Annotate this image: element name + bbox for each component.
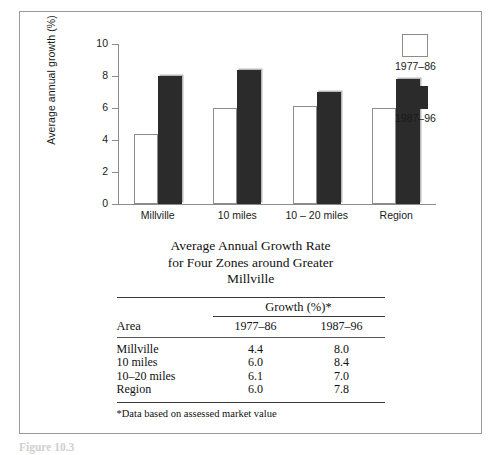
bar-10-miles-1977–86 <box>213 108 237 204</box>
table-title-line-0: Average Annual Growth Rate <box>101 238 401 255</box>
legend-label-0: 1977–86 <box>395 60 481 72</box>
row-value-2: 8.4 <box>299 356 385 370</box>
y-tick-label-8: 8 <box>74 69 108 81</box>
bar-10-20-miles-1987–96 <box>317 92 341 204</box>
table-header-period-1: 1977–86 <box>213 319 299 334</box>
table-title-line-2: Millville <box>101 271 401 288</box>
table-footnote: *Data based on assessed market value <box>117 403 385 419</box>
table-header-row: Area 1977–86 1987–96 <box>117 317 385 337</box>
y-tick-label-10: 10 <box>74 37 108 49</box>
table-title-line-1: for Four Zones around Greater <box>101 255 401 272</box>
row-area: Region <box>117 383 213 397</box>
y-tick-0 <box>112 204 118 205</box>
row-value-2: 7.8 <box>299 383 385 397</box>
legend-swatch-1 <box>402 86 428 109</box>
row-value-2: 7.0 <box>299 370 385 384</box>
figure-caption: Figure 10.3 <box>19 441 74 453</box>
bar-group <box>118 44 436 204</box>
row-area: Millville <box>117 343 213 357</box>
data-table: Growth (%)* Area 1977–86 1987–96 Millvil… <box>117 297 385 419</box>
legend-label-1: 1987–96 <box>395 112 481 124</box>
y-tick-label-6: 6 <box>74 101 108 113</box>
table-body: Millville4.48.010 miles6.08.410–20 miles… <box>117 338 385 402</box>
table-row: 10 miles6.08.4 <box>117 356 385 370</box>
data-table-section: Average Annual Growth Ratefor Four Zones… <box>20 238 481 419</box>
x-tick-label-3: Region <box>346 209 446 221</box>
y-axis-label: Average annual growth (%) <box>45 5 57 155</box>
row-value-1: 6.0 <box>213 356 299 370</box>
row-value-1: 6.1 <box>213 370 299 384</box>
bar-10-miles-1987–96 <box>237 70 261 204</box>
y-tick-label-2: 2 <box>74 165 108 177</box>
row-value-2: 8.0 <box>299 343 385 357</box>
bar-10-20-miles-1977–86 <box>293 106 317 204</box>
table-row: Millville4.48.0 <box>117 343 385 357</box>
bar-chart: Average annual growth (%) 0246810 Millvi… <box>20 12 481 227</box>
figure-container: Average annual growth (%) 0246810 Millvi… <box>0 0 499 455</box>
legend-swatch-0 <box>402 34 428 57</box>
table-row: 10–20 miles6.17.0 <box>117 370 385 384</box>
bar-region-1977–86 <box>372 108 396 204</box>
table-header-period-2: 1987–96 <box>299 319 385 334</box>
figure-frame: Average annual growth (%) 0246810 Millvi… <box>19 11 482 434</box>
table-row: Region6.07.8 <box>117 383 385 397</box>
table-title: Average Annual Growth Ratefor Four Zones… <box>101 238 401 288</box>
table-span-header: Growth (%)* <box>213 298 385 316</box>
bar-millville-1977–86 <box>134 134 158 204</box>
chart-legend: 1977–861987–96 <box>395 34 481 138</box>
row-value-1: 4.4 <box>213 343 299 357</box>
row-area: 10–20 miles <box>117 370 213 384</box>
row-area: 10 miles <box>117 356 213 370</box>
x-axis-line <box>118 204 436 205</box>
row-value-1: 6.0 <box>213 383 299 397</box>
y-tick-label-0: 0 <box>74 197 108 209</box>
y-tick-label-4: 4 <box>74 133 108 145</box>
table-header-area: Area <box>117 319 213 334</box>
bar-millville-1987–96 <box>158 76 182 204</box>
table-span-header-row: Growth (%)* <box>117 298 385 316</box>
